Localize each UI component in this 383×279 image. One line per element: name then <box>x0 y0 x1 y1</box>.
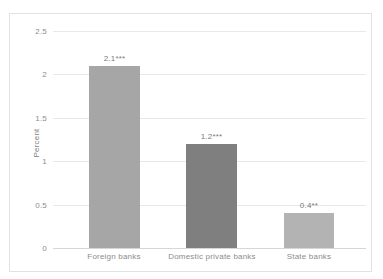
y-tick-label-2-5: 2.5 <box>35 27 47 36</box>
bar-value-2: 0.4** <box>300 201 318 210</box>
bar-chart: Percent 2.5 2 1.5 1 0.5 0 2.1*** 1.2*** <box>9 13 372 272</box>
bar-value-1: 1.2*** <box>201 132 223 141</box>
bar-value-0: 2.1*** <box>104 54 126 63</box>
x-tick-label-1: Domestic private banks <box>152 252 272 261</box>
y-tick-label-2: 2 <box>42 70 47 79</box>
bar-0[interactable] <box>89 66 140 248</box>
bar-group-2[interactable]: 0.4** <box>284 31 334 248</box>
y-tick-label-0-5: 0.5 <box>35 200 47 209</box>
gridline-0-baseline: 0 <box>53 248 366 249</box>
bars-layer: 2.1*** 1.2*** 0.4** <box>53 31 366 248</box>
y-axis-title: Percent <box>32 128 41 157</box>
y-tick-label-1: 1 <box>42 157 47 166</box>
y-tick-label-1-5: 1.5 <box>35 113 47 122</box>
x-axis-labels: Foreign banks Domestic private banks Sta… <box>53 252 366 266</box>
bar-group-1[interactable]: 1.2*** <box>186 31 237 248</box>
y-tick-label-0: 0 <box>42 244 47 253</box>
x-tick-label-0: Foreign banks <box>64 252 164 261</box>
x-tick-label-2: State banks <box>259 252 359 261</box>
bar-1[interactable] <box>186 144 237 248</box>
bar-2[interactable] <box>284 213 334 248</box>
plot-area: 2.5 2 1.5 1 0.5 0 2.1*** 1.2*** <box>53 31 366 248</box>
bar-group-0[interactable]: 2.1*** <box>89 31 140 248</box>
